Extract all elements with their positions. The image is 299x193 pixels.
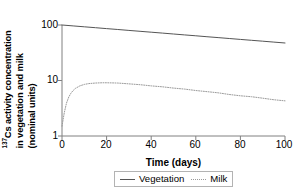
chart-legend: Vegetation Milk: [114, 171, 233, 187]
data-series-vegetation: [62, 25, 285, 43]
legend-item-milk[interactable]: Milk: [191, 174, 227, 184]
legend-swatch-dotted-line-icon: [191, 179, 206, 180]
y-tick-label-10: 10: [32, 75, 58, 85]
x-tick-label-80: 80: [225, 140, 255, 150]
x-tick-label-0: 0: [47, 140, 77, 150]
series-group: [62, 25, 285, 126]
x-tick-label-20: 20: [91, 140, 121, 150]
chart-figure: 137Cs activity concentration in vegetati…: [0, 0, 299, 193]
legend-item-vegetation[interactable]: Vegetation: [120, 174, 184, 184]
y-tick-label-100: 100: [32, 20, 58, 30]
y-axis-title-superscript: 137: [1, 138, 8, 148]
axes-group: [58, 25, 285, 140]
x-tick-label-100: 100: [269, 140, 299, 150]
legend-label-milk: Milk: [210, 174, 227, 184]
legend-label-vegetation: Vegetation: [139, 174, 184, 184]
x-tick-label-60: 60: [180, 140, 210, 150]
data-series-milk: [62, 83, 285, 126]
y-axis-title-text-1: Cs activity concentration: [2, 30, 13, 138]
plot-svg: [62, 25, 285, 136]
x-tick-label-40: 40: [136, 140, 166, 150]
legend-swatch-solid-line-icon: [120, 179, 135, 180]
y-axis-title-line-2: in vegetation and milk: [15, 53, 24, 148]
x-axis-title: Time (days): [62, 157, 285, 168]
y-axis-title-line-1: 137Cs activity concentration: [2, 30, 12, 148]
plot-area: [62, 25, 285, 136]
